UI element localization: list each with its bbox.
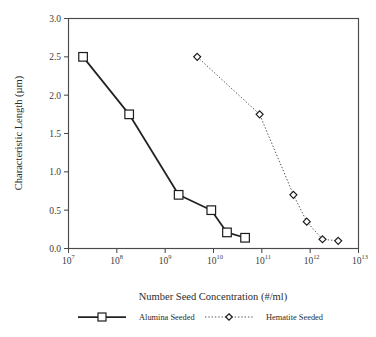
- y-tick-label: 3.0: [49, 14, 61, 24]
- y-tick-label: 1.5: [49, 129, 61, 139]
- data-point-square: [125, 110, 134, 119]
- legend-label: Alumina Seeded: [139, 313, 195, 322]
- y-tick-label: 0.5: [49, 206, 61, 216]
- data-point-square: [241, 233, 250, 242]
- legend-entry-1[interactable]: Alumina Seeded: [78, 313, 195, 322]
- x-tick-exponent: 8: [120, 253, 123, 260]
- legend-entry-2[interactable]: Hematite Seeded: [205, 313, 324, 322]
- data-point-square: [79, 53, 88, 62]
- x-axis-title: Number Seed Concentration (#/ml): [139, 291, 288, 303]
- series-line: [83, 57, 245, 238]
- y-axis-ticks: 0.00.51.01.52.02.53.0: [49, 14, 68, 254]
- data-point-square: [174, 191, 183, 200]
- x-tick-label: 109: [159, 253, 172, 265]
- series-1: [79, 53, 250, 243]
- data-point-diamond: [290, 191, 297, 198]
- y-tick-label: 2.0: [49, 91, 61, 101]
- x-tick-exponent: 10: [217, 253, 223, 260]
- x-tick-label: 1011: [255, 253, 271, 265]
- x-tick-label: 1010: [207, 253, 223, 265]
- data-point-square: [207, 206, 216, 215]
- data-point-square: [223, 228, 232, 237]
- y-tick-label: 0.0: [49, 244, 61, 254]
- x-tick-label: 107: [62, 253, 76, 265]
- x-tick-label: 1012: [304, 253, 320, 265]
- x-tick-label: 1013: [352, 253, 368, 265]
- data-point-diamond: [226, 314, 233, 321]
- characteristic-length-vs-seed-concentration-chart: 1071081091010101110121013 0.00.51.01.52.…: [0, 0, 376, 337]
- x-tick-exponent: 9: [168, 253, 171, 260]
- x-tick-exponent: 11: [265, 253, 271, 260]
- y-tick-label: 1.0: [49, 167, 61, 177]
- chart-legend: Alumina SeededHematite Seeded: [78, 313, 324, 322]
- y-tick-label: 2.5: [49, 52, 61, 62]
- data-point-square: [98, 313, 106, 321]
- x-tick-exponent: 12: [313, 253, 319, 260]
- x-tick-exponent: 7: [72, 253, 76, 260]
- legend-label: Hematite Seeded: [266, 313, 324, 322]
- data-point-diamond: [335, 237, 342, 244]
- x-tick-label: 108: [110, 253, 123, 265]
- y-axis-title: Characteristic Length (µm): [13, 75, 25, 190]
- data-series-layer: [79, 53, 342, 245]
- x-axis-ticks: 1071081091010101110121013: [62, 249, 368, 266]
- data-point-diamond: [256, 111, 263, 118]
- series-line: [197, 57, 338, 241]
- chart-figure: 1071081091010101110121013 0.00.51.01.52.…: [0, 0, 376, 337]
- x-tick-exponent: 13: [362, 253, 368, 260]
